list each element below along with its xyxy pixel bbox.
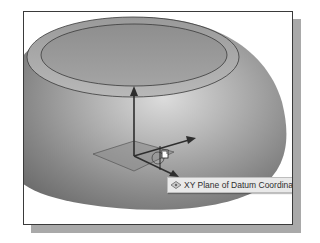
preselection-tooltip: XY Plane of Datum Coordinat: [167, 177, 293, 193]
tooltip-text: XY Plane of Datum Coordinat: [184, 180, 293, 190]
datum-plane-icon: [171, 181, 181, 189]
graphics-window[interactable]: XY Plane of Datum Coordinat: [23, 11, 293, 225]
top-face-edge[interactable]: [41, 24, 227, 86]
